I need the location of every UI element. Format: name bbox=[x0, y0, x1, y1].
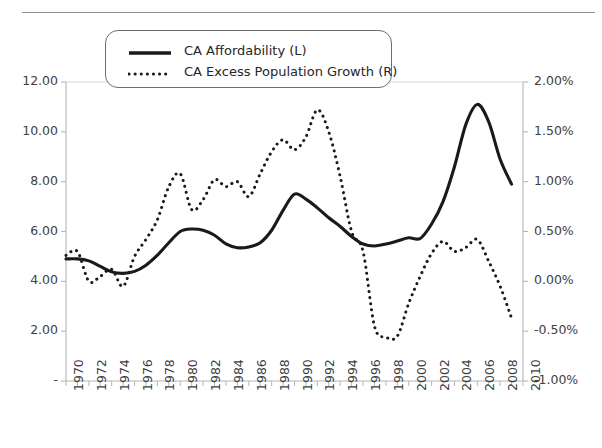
x-axis-tick-label: 1970 bbox=[71, 359, 86, 391]
left-axis-tick-label: 8.00 bbox=[6, 173, 58, 188]
x-axis-tick-label: 2008 bbox=[505, 359, 520, 391]
x-axis-tick-label: 2010 bbox=[528, 359, 543, 391]
legend-label-ca-affordability: CA Affordability (L) bbox=[184, 43, 307, 58]
x-axis-tick-label: 1976 bbox=[140, 359, 155, 391]
left-axis-tick-label: 6.00 bbox=[6, 223, 58, 238]
left-axis-tick-label: - bbox=[6, 372, 58, 387]
x-axis-tick-label: 2000 bbox=[414, 359, 429, 391]
x-axis-tick-label: 1982 bbox=[208, 359, 223, 391]
x-axis-tick-label: 1988 bbox=[277, 359, 292, 391]
x-axis-tick-label: 1986 bbox=[254, 359, 269, 391]
left-axis-tick-label: 2.00 bbox=[6, 322, 58, 337]
x-axis-tick-label: 2004 bbox=[459, 359, 474, 391]
right-axis-ticks bbox=[523, 82, 528, 381]
x-axis-tick-label: 1994 bbox=[345, 359, 360, 391]
x-axis-tick-label: 1972 bbox=[94, 359, 109, 391]
right-axis-tick-label: 0.50% bbox=[534, 223, 574, 238]
right-axis-tick-label: 2.00% bbox=[534, 73, 574, 88]
series-ca-excess-population-growth bbox=[66, 110, 512, 340]
x-axis-tick-label: 1998 bbox=[391, 359, 406, 391]
x-axis-tick-label: 1974 bbox=[117, 359, 132, 391]
chart-legend: CA Affordability (L) CA Excess Populatio… bbox=[105, 30, 392, 88]
right-axis-tick-label: 1.00% bbox=[534, 173, 574, 188]
left-axis-tick-label: 10.00 bbox=[6, 123, 58, 138]
left-axis-tick-label: 4.00 bbox=[6, 272, 58, 287]
x-axis-tick-label: 1990 bbox=[300, 359, 315, 391]
x-axis-tick-label: 2006 bbox=[482, 359, 497, 391]
dotted-line-swatch bbox=[128, 65, 172, 77]
right-axis-tick-label: 0.00% bbox=[534, 272, 574, 287]
series-ca-affordability bbox=[66, 104, 512, 273]
x-axis-tick-label: 1978 bbox=[162, 359, 177, 391]
legend-item-ca-excess-population-growth: CA Excess Population Growth (R) bbox=[128, 62, 397, 80]
chart-page: -2.004.006.008.0010.0012.00 -1.00%-0.50%… bbox=[0, 0, 602, 448]
x-axis-tick-label: 1996 bbox=[368, 359, 383, 391]
right-axis-tick-label: 1.50% bbox=[534, 123, 574, 138]
x-axis-tick-label: 2002 bbox=[437, 359, 452, 391]
x-axis-ticks bbox=[66, 381, 523, 386]
legend-label-ca-excess-population-growth: CA Excess Population Growth (R) bbox=[184, 64, 397, 79]
x-axis-tick-label: 1980 bbox=[185, 359, 200, 391]
legend-item-ca-affordability: CA Affordability (L) bbox=[128, 41, 307, 59]
solid-line-swatch bbox=[128, 44, 172, 56]
left-axis-tick-label: 12.00 bbox=[6, 73, 58, 88]
x-axis-tick-label: 1992 bbox=[322, 359, 337, 391]
right-axis-tick-label: -0.50% bbox=[534, 322, 578, 337]
left-axis-ticks bbox=[61, 82, 66, 381]
x-axis-tick-label: 1984 bbox=[231, 359, 246, 391]
